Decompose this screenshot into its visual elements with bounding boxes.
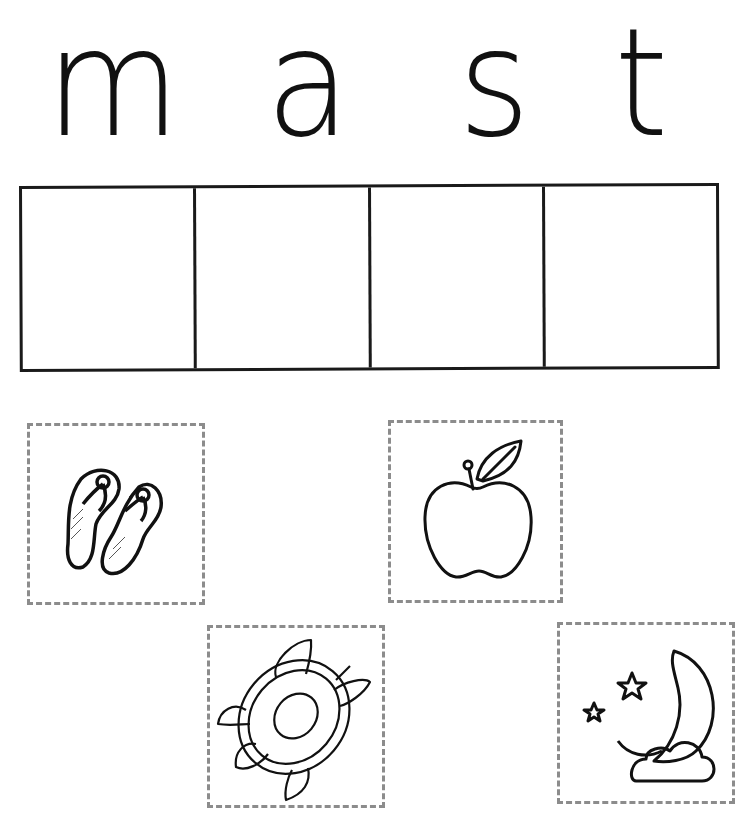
- letter-box-2[interactable]: [196, 187, 371, 368]
- apple-icon: [411, 437, 541, 587]
- picture-card-apple[interactable]: [388, 420, 563, 603]
- word-letters: m a s t: [0, 0, 750, 180]
- turtle-icon: [216, 632, 376, 802]
- flip-flops-icon: [51, 449, 181, 579]
- picture-card-flip-flops[interactable]: [27, 423, 205, 605]
- letter-a: a: [266, 8, 351, 158]
- letter-box-1[interactable]: [22, 188, 197, 369]
- moon-icon: [566, 633, 726, 793]
- letter-box-4[interactable]: [545, 186, 717, 367]
- picture-card-turtle[interactable]: [207, 625, 385, 808]
- letter-box-3[interactable]: [371, 187, 546, 368]
- letter-boxes: [19, 183, 720, 372]
- letter-t: t: [614, 8, 668, 158]
- picture-card-moon[interactable]: [557, 622, 735, 804]
- letter-s: s: [458, 8, 530, 158]
- letter-m: m: [46, 8, 180, 158]
